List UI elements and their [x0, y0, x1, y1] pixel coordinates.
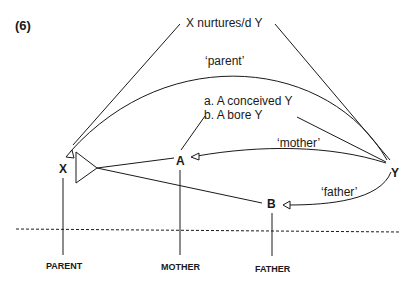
figure-number: (6)	[15, 19, 31, 32]
parent-arrowhead	[66, 150, 74, 158]
top-predicate-label: X nurtures/d Y	[186, 17, 263, 29]
caption-mother: MOTHER	[161, 263, 200, 272]
mother-arc-label: ‘mother’	[277, 137, 320, 149]
diagram-canvas	[0, 0, 419, 289]
father-arrowhead	[283, 201, 290, 209]
node-b: B	[267, 198, 276, 210]
parent-arc-label: ‘parent’	[205, 55, 244, 67]
branch-line-a	[97, 158, 174, 168]
nurture-line-x	[73, 24, 180, 145]
caption-parent: PARENT	[46, 262, 82, 271]
mother-arc	[197, 148, 386, 163]
mother-arrowhead	[191, 153, 199, 160]
caption-father: FATHER	[255, 265, 290, 274]
node-y: Y	[391, 167, 399, 179]
branch-triangle	[76, 152, 97, 183]
node-a: A	[176, 155, 185, 167]
dashed-baseline	[16, 229, 400, 232]
node-x: X	[59, 163, 67, 175]
father-arc-label: ‘father’	[321, 186, 357, 198]
condition-line-a	[181, 116, 205, 150]
condition-b-label: b. A bore Y	[204, 109, 263, 121]
condition-a-label: a. A conceived Y	[204, 95, 293, 107]
